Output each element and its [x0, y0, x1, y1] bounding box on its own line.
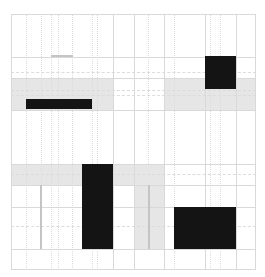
black-block-bottom-right [174, 207, 236, 249]
grid-vertical-line [236, 14, 237, 270]
black-block-top-right [205, 56, 236, 89]
strip-center-line [148, 185, 150, 249]
grid-horizontal-line [11, 249, 256, 250]
grid-vertical-line [134, 14, 135, 270]
grid-vertical-line [164, 14, 165, 270]
grid-horizontal-line [11, 164, 256, 165]
short-top-line [51, 55, 73, 57]
grid-diagram [0, 0, 265, 277]
grid-vertical-line [113, 14, 114, 270]
grid-horizontal-line [11, 110, 256, 111]
black-column-center [82, 164, 113, 249]
grid-horizontal-line [11, 185, 256, 186]
left-vertical-line [40, 185, 42, 249]
black-bar-left [26, 99, 92, 109]
